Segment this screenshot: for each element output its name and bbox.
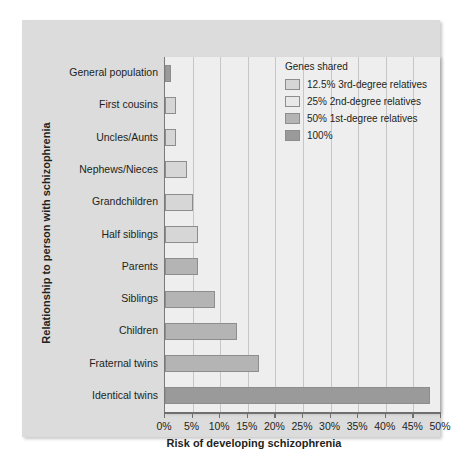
bar-row [165,251,441,283]
x-tick [247,412,248,418]
bar [165,129,176,146]
bar [165,291,215,308]
bar-row [165,380,441,412]
bar [165,387,430,404]
x-tick [330,412,331,418]
legend-label: 25% 2nd-degree relatives [307,96,421,107]
category-label: General population [28,66,158,78]
x-tick [357,412,358,418]
bar-row [165,283,441,315]
bar-row [165,186,441,218]
legend-items: 12.5% 3rd-degree relatives25% 2nd-degree… [285,77,455,143]
bar [165,258,198,275]
legend-swatch-icon [285,96,300,107]
x-tick [219,412,220,418]
legend-item: 50% 1st-degree relatives [285,111,455,126]
x-tick [412,412,413,418]
x-tick [302,412,303,418]
bar [165,65,171,82]
legend-label: 12.5% 3rd-degree relatives [307,79,427,90]
legend-swatch-icon [285,79,300,90]
bar-row [165,218,441,250]
bar [165,97,176,114]
bar-row [165,347,441,379]
bar [165,226,198,243]
x-tick [274,412,275,418]
x-tick [440,412,441,418]
bar [165,194,193,211]
x-tick [192,412,193,418]
bar-row [165,154,441,186]
x-axis-title: Risk of developing schizophrenia [22,437,464,449]
legend-label: 50% 1st-degree relatives [307,113,418,124]
bar [165,355,259,372]
bar [165,323,237,340]
bar-row [165,315,441,347]
legend-swatch-icon [285,130,300,141]
x-tick [385,412,386,418]
x-tick-label: 50% [420,420,460,432]
legend-item: 100% [285,128,455,143]
chart-figure: Genes shared 12.5% 3rd-degree relatives2… [0,0,464,459]
legend-label: 100% [307,130,333,141]
y-axis-title: Relationship to person with schizophreni… [40,93,52,373]
legend-title: Genes shared [285,61,455,72]
legend-item: 12.5% 3rd-degree relatives [285,77,455,92]
chart-panel: Genes shared 12.5% 3rd-degree relatives2… [22,20,440,437]
plot-area: Genes shared 12.5% 3rd-degree relatives2… [164,57,440,412]
chart-legend: Genes shared 12.5% 3rd-degree relatives2… [285,61,455,145]
legend-item: 25% 2nd-degree relatives [285,94,455,109]
category-label: Identical twins [28,389,158,401]
x-tick [164,412,165,418]
bar [165,161,187,178]
legend-swatch-icon [285,113,300,124]
